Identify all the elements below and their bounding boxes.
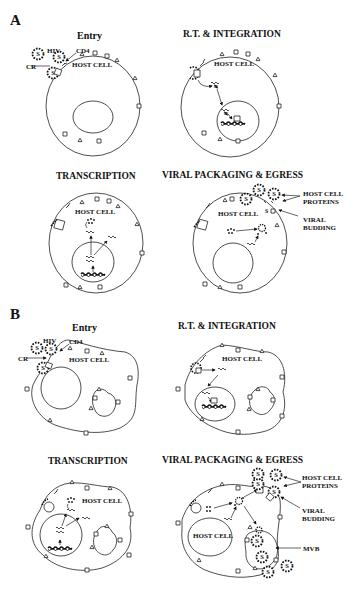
- panel-b-packaging-egress: [176, 469, 301, 578]
- panel-b-transcription: [26, 480, 133, 572]
- host-cell-label: HOST CELL: [69, 356, 109, 364]
- panel-b-entry: [25, 340, 138, 435]
- panel-label-b: B: [10, 306, 20, 323]
- host-cell-label: HOST CELL: [218, 210, 258, 218]
- panel-a-packaging-egress: S: [193, 185, 300, 294]
- host-cell-label: HOST CELL: [75, 208, 115, 216]
- host-cell-proteins-label: HOST CELLPROTEINS: [302, 474, 342, 490]
- panel-a-entry-title: Entry: [77, 30, 102, 41]
- panel-b-egress-title: VIRAL PACKAGING & EGRESS: [162, 455, 303, 465]
- host-cell-label: HOST CELL: [72, 61, 112, 69]
- mvb-label: MVB: [303, 545, 319, 553]
- panel-b-transcription-title: TRANSCRIPTION: [48, 456, 128, 466]
- hiv-label: HIV: [47, 47, 60, 55]
- host-cell-label: HOST CELL: [193, 532, 233, 540]
- panel-label-a: A: [10, 12, 21, 29]
- host-cell-label: HOST CELL: [222, 355, 262, 363]
- hiv-label: HIV: [43, 337, 56, 345]
- cr-label: CR: [18, 355, 28, 363]
- cd4-label: CD4: [76, 47, 90, 55]
- hiv-lifecycle-figure: S: [0, 0, 355, 592]
- host-cell-label: HOST CELL: [214, 60, 254, 68]
- panel-b-entry-title: Entry: [72, 322, 97, 333]
- cd4-label: CD4: [69, 338, 83, 346]
- viral-budding-label: VIRALBUDDING: [303, 216, 336, 232]
- panel-a-rt-title: R.T. & INTEGRATION: [183, 29, 281, 39]
- panel-a-egress-title: VIRAL PACKAGING & EGRESS: [162, 170, 303, 180]
- cr-label: CR: [26, 63, 36, 71]
- host-cell-label: HOST CELL: [82, 497, 122, 505]
- host-cell-proteins-label: HOST CELLPROTEINS: [303, 190, 343, 206]
- viral-budding-label: VIRALBUDDING: [302, 507, 335, 523]
- svg-text:S: S: [265, 208, 269, 214]
- panel-b-rt-title: R.T. & INTEGRATION: [178, 321, 276, 331]
- panel-a-transcription-title: TRANSCRIPTION: [56, 171, 136, 181]
